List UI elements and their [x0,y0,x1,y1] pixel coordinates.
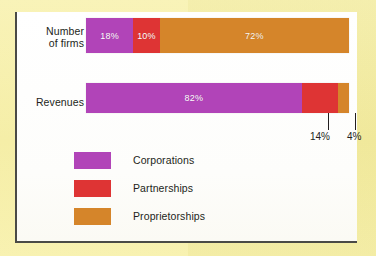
bar-segment-firms-proprietorships[interactable]: 72% [160,18,349,53]
chart-area: Number of firms 18% 10% 72% Revenues 82%… [17,12,357,241]
legend-swatch-partnerships [74,180,111,197]
stacked-bar-number-of-firms: 18% 10% 72% [86,18,349,53]
legend-label-proprietorships: Proprietorships [133,210,205,222]
bar-segment-firms-partnerships[interactable]: 10% [133,18,159,53]
bar-segment-label-firms-proprietorships: 72% [245,31,264,41]
bar-segment-firms-corporations[interactable]: 18% [86,18,133,53]
chart-panel: Number of firms 18% 10% 72% Revenues 82%… [15,12,357,243]
legend-swatch-proprietorships [74,208,111,225]
bar-segment-revenues-partnerships[interactable] [302,83,339,113]
legend-item-corporations[interactable]: Corporations [74,147,205,173]
bar-segment-label-firms-corporations: 18% [100,31,119,41]
row-label-number-of-firms: Number of firms [22,25,84,49]
legend-item-partnerships[interactable]: Partnerships [74,175,205,201]
bar-segment-label-revenues-corporations: 82% [185,93,204,103]
callout-leader-line-4-percent [355,113,356,130]
legend-label-corporations: Corporations [133,154,194,166]
callout-leader-line-14-percent [328,113,329,130]
chart-legend: Corporations Partnerships Proprietorship… [74,147,205,231]
legend-label-partnerships: Partnerships [133,182,193,194]
legend-swatch-corporations [74,152,111,169]
stacked-bar-revenues: 82% [86,83,349,113]
row-label-revenues: Revenues [22,96,84,108]
callout-label-revenues-partnerships: 14% [310,131,330,142]
bar-segment-revenues-proprietorships[interactable] [338,83,349,113]
bar-segment-revenues-corporations[interactable]: 82% [86,83,302,113]
callout-label-revenues-proprietorships: 4% [347,131,361,142]
bar-segment-label-firms-partnerships: 10% [137,31,156,41]
legend-item-proprietorships[interactable]: Proprietorships [74,203,205,229]
